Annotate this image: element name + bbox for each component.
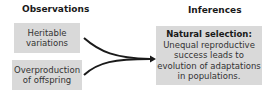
inference-title: Natural selection: (166, 29, 252, 40)
inference-line: Unequal reproductive (163, 40, 255, 51)
inference-line: success leads to (174, 50, 244, 61)
inference-box-natural-selection: Natural selection: Unequal reproductive … (156, 26, 262, 85)
inference-line: in populations. (178, 71, 241, 82)
inference-line: evolution of adaptations (157, 61, 261, 72)
